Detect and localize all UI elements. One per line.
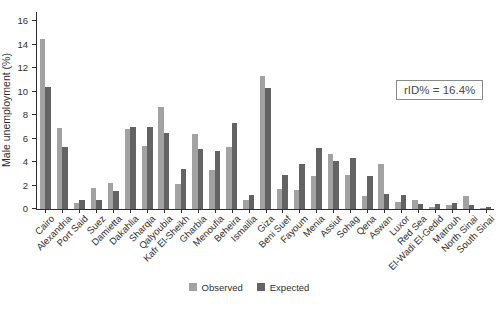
bar-group-north-sinai: [460, 21, 477, 209]
bar-expected-red-sea: [418, 204, 424, 209]
bar-expected-suez: [96, 200, 102, 209]
bar-group-south-sinai: [477, 21, 494, 209]
bar-expected-menoufia: [215, 151, 221, 209]
bar-expected-matrouh: [452, 203, 458, 209]
y-tick-mark-6: [32, 138, 36, 139]
y-tick-mark-12: [32, 67, 36, 68]
y-tick-mark-2: [32, 185, 36, 186]
bar-group-qena: [359, 21, 376, 209]
y-tick-mark-8: [32, 114, 36, 115]
bar-group-cairo: [37, 21, 54, 209]
bar-group-suez: [88, 21, 105, 209]
bar-expected-port-said: [79, 200, 85, 209]
bar-expected-ismailia: [249, 195, 255, 209]
y-tick-label-12: 12: [17, 62, 28, 74]
y-tick-label-6: 6: [23, 133, 28, 145]
bar-group-el-wadi-el-gedid: [426, 21, 443, 209]
legend-label-expected: Expected: [270, 282, 310, 293]
bar-expected-gharbia: [198, 149, 204, 209]
bar-group-menia: [308, 21, 325, 209]
bar-group-sharqia: [139, 21, 156, 209]
bar-expected-south-sinai: [486, 207, 492, 209]
bar-expected-qena: [367, 176, 373, 209]
bar-group-matrouh: [443, 21, 460, 209]
bar-group-luxor: [392, 21, 409, 209]
legend-label-observed: Observed: [202, 282, 243, 293]
bar-group-aswan: [376, 21, 393, 209]
x-axis-labels: CairoAlexandriaPort SaidSuezDamiettaDaka…: [37, 213, 494, 283]
bar-expected-dakahlia: [130, 127, 136, 209]
bar-group-red-sea: [409, 21, 426, 209]
y-tick-mark-4: [32, 161, 36, 162]
y-tick-label-14: 14: [17, 39, 28, 51]
bar-expected-assiut: [333, 161, 339, 209]
bar-group-alexandria: [54, 21, 71, 209]
y-tick-label-10: 10: [17, 86, 28, 98]
bar-group-assiut: [325, 21, 342, 209]
bar-group-ismailia: [240, 21, 257, 209]
bar-expected-fayoum: [299, 164, 305, 209]
y-tick-label-4: 4: [23, 156, 28, 168]
bar-expected-qalyoubia: [164, 133, 170, 209]
y-axis: 0246810121416: [0, 21, 36, 209]
bar-expected-cairo: [45, 87, 51, 209]
bar-group-qalyoubia: [155, 21, 172, 209]
legend-item-observed: Observed: [189, 282, 243, 293]
annotation-box: rID% = 16.4%: [396, 80, 483, 100]
bar-group-damietta: [105, 21, 122, 209]
y-tick-label-8: 8: [23, 109, 28, 121]
y-tick-mark-16: [32, 20, 36, 21]
bar-expected-el-wadi-el-gedid: [435, 204, 441, 209]
bar-expected-giza: [265, 88, 271, 209]
y-tick-label-16: 16: [17, 15, 28, 27]
plot-area: [37, 21, 494, 209]
y-tick-mark-10: [32, 91, 36, 92]
bar-group-gharbia: [189, 21, 206, 209]
legend: ObservedExpected: [0, 280, 498, 294]
unemployment-bar-chart: Male unemployment (%) 0246810121416 Cair…: [0, 0, 498, 309]
bar-group-giza: [257, 21, 274, 209]
bar-group-beheira: [223, 21, 240, 209]
bar-expected-sohag: [350, 158, 356, 209]
bar-expected-aswan: [384, 194, 390, 209]
bar-expected-kafr-el-sheikh: [181, 169, 187, 209]
y-tick-mark-0: [32, 208, 36, 209]
bar-expected-north-sinai: [469, 205, 475, 209]
y-tick-label-2: 2: [23, 180, 28, 192]
bar-expected-beni-suef: [282, 175, 288, 209]
bar-expected-luxor: [401, 195, 407, 209]
legend-swatch-observed: [189, 283, 197, 291]
y-tick-label-0: 0: [23, 203, 28, 215]
y-tick-mark-14: [32, 44, 36, 45]
bar-group-sohag: [342, 21, 359, 209]
bar-expected-beheira: [232, 123, 238, 209]
bar-group-fayoum: [291, 21, 308, 209]
bar-expected-menia: [316, 148, 322, 209]
legend-swatch-expected: [257, 283, 265, 291]
bar-expected-alexandria: [62, 147, 68, 209]
bar-group-kafr-el-sheikh: [172, 21, 189, 209]
bar-group-menoufia: [206, 21, 223, 209]
legend-item-expected: Expected: [257, 282, 310, 293]
bar-group-dakahlia: [122, 21, 139, 209]
bar-expected-damietta: [113, 191, 119, 209]
bar-group-port-said: [71, 21, 88, 209]
bar-expected-sharqia: [147, 127, 153, 209]
bar-group-beni-suef: [274, 21, 291, 209]
